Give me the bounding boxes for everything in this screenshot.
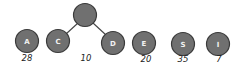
node-e: E [133,32,156,55]
svg-text:A: A [24,38,30,46]
node-s: S [172,33,195,56]
weight-root: 10 [81,53,92,63]
edge-root-c [66,23,78,34]
root-node [74,4,97,27]
node-c: C [47,30,70,53]
svg-text:C: C [55,38,60,46]
edge-root-d [93,23,106,35]
weight-i: 7 [216,54,222,64]
node-i: I [207,33,230,56]
svg-text:S: S [180,41,185,49]
node-a: A [16,30,39,53]
svg-text:D: D [110,40,116,48]
node-d: D [102,32,125,55]
weight-s: 35 [178,54,189,64]
huffman-tree-diagram: A C D E S I 28 10 20 35 7 [0,0,243,68]
weight-e: 20 [141,54,152,64]
svg-text:I: I [217,41,220,49]
svg-text:E: E [142,40,147,48]
weight-a: 28 [22,53,33,63]
